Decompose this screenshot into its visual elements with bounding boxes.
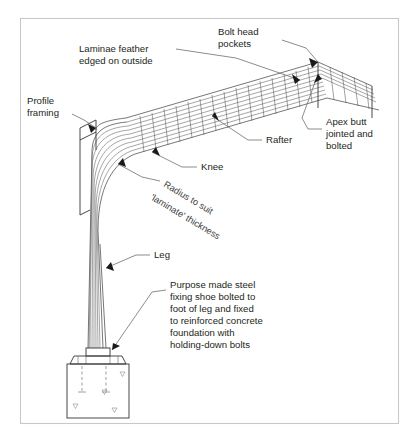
label-shoe-note-2: foot of leg and fixed [170,303,254,314]
label-profile-framing-line1: Profile [27,95,54,106]
label-shoe-note-0: Purpose made steel [170,279,255,290]
concrete-foundation [67,364,129,418]
label-leg: Leg [154,249,170,260]
label-apex-line2: jointed and [325,128,373,139]
label-shoe-note-1: fixing shoe bolted to [170,291,255,302]
steel-fixing-shoe [70,348,126,364]
knee-laminations [92,118,135,230]
label-apex-line1: Apex butt [326,116,367,127]
label-apex-line3: bolted [326,140,352,151]
apex-joint [318,62,379,118]
rafter-laminations [126,62,327,154]
label-shoe-note-4: foundation with [170,327,235,338]
label-knee: Knee [201,161,223,172]
label-laminae-feather-line2: edged on outside [79,55,153,66]
diagram-canvas: Laminae feather edged on outside Bolt he… [0,0,418,440]
label-shoe-note-5: holding-down bolts [170,339,250,350]
label-rafter: Rafter [266,134,293,145]
drawing-border [21,19,399,424]
label-shoe-note-3: to reinforced concrete [170,315,263,326]
profile-framing-plate [80,120,96,215]
label-profile-framing-line2: framing [27,107,59,118]
label-bolt-head-pockets-line1: Bolt head [218,26,259,37]
label-bolt-head-pockets-line2: pockets [218,38,251,49]
label-laminae-feather-line1: Laminae feather [79,43,149,54]
